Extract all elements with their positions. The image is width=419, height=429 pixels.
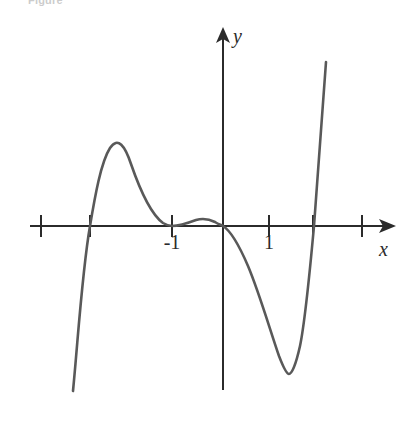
axis-group — [30, 27, 396, 390]
graph-plot — [0, 0, 419, 429]
x-tick-label-minus-one: -1 — [152, 231, 192, 254]
y-axis-label: y — [233, 25, 242, 48]
x-tick-label-one: 1 — [256, 231, 282, 254]
x-axis-label: x — [379, 238, 388, 261]
figure-container: Figure y x -1 1 — [0, 0, 419, 429]
